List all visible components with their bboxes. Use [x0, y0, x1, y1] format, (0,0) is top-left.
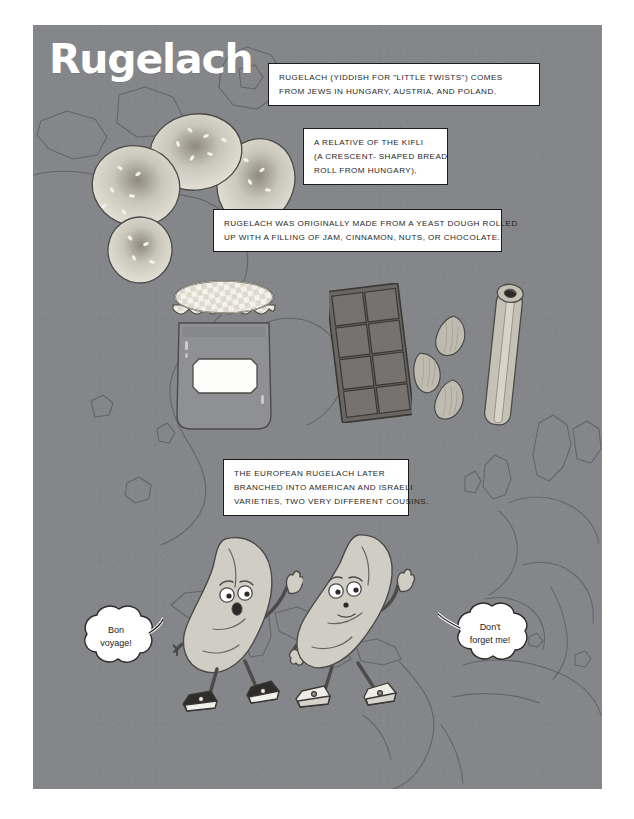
caption-line: THE EUROPEAN RUGELACH LATER: [234, 467, 398, 481]
rugelach-infographic-poster: Rugelach: [33, 25, 602, 789]
caption-line: RUGELACH WAS ORIGINALLY MADE FROM A YEAS…: [224, 217, 491, 231]
bubble-bon-voyage: Bon voyage!: [73, 603, 163, 671]
caption-line: ROLL FROM HUNGARY),: [314, 164, 437, 178]
jam-jar-illustration: [165, 275, 283, 437]
caption-line: BRANCHED INTO AMERICAN AND ISRAELI: [234, 481, 398, 495]
chocolate-bar-illustration: [329, 283, 412, 423]
page-canvas: Rugelach: [0, 0, 634, 819]
almonds-illustration: [413, 310, 473, 420]
caption-line: A RELATIVE OF THE KIFLI: [314, 136, 437, 150]
caption-kifli: A RELATIVE OF THE KIFLI (A CRESCENT- SHA…: [303, 128, 448, 185]
rugelach-character-left: [173, 525, 303, 715]
caption-line: VARIETIES, TWO VERY DIFFERENT COUSINS.: [234, 495, 398, 509]
caption-dough: RUGELACH WAS ORIGINALLY MADE FROM A YEAS…: [213, 209, 502, 252]
rugelach-pastry-illustration: [78, 110, 308, 290]
caption-origin: RUGELACH (YIDDISH FOR "LITTLE TWISTS") C…: [268, 63, 540, 106]
caption-line: RUGELACH (YIDDISH FOR "LITTLE TWISTS") C…: [279, 71, 529, 85]
cinnamon-stick-illustration: [481, 277, 527, 429]
rugelach-character-right: [288, 523, 418, 715]
caption-branches: THE EUROPEAN RUGELACH LATER BRANCHED INT…: [223, 459, 409, 516]
bubble-dont-forget: Don't forget me!: [438, 600, 536, 668]
caption-line: UP WITH A FILLING OF JAM, CINNAMON, NUTS…: [224, 231, 491, 245]
caption-line: (A CRESCENT- SHAPED BREAD: [314, 150, 437, 164]
caption-line: FROM JEWS IN HUNGARY, AUSTRIA, AND POLAN…: [279, 85, 529, 99]
page-title: Rugelach: [49, 39, 253, 80]
